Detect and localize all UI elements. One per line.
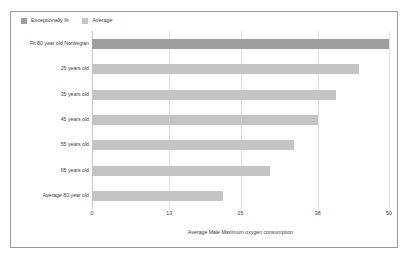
bar-row — [92, 158, 389, 183]
legend-swatch-icon — [21, 18, 27, 24]
category-label: Average 80 year old — [43, 194, 89, 199]
category-label: 45 years old — [61, 117, 89, 122]
x-tick-label: 38 — [315, 211, 321, 216]
bar[interactable] — [92, 115, 318, 125]
category-label: 25 years old — [61, 67, 89, 72]
x-axis-title: Average Male Maximum oxygen consumption — [92, 230, 389, 235]
chart-legend: Exceptionally fit Average — [21, 18, 112, 24]
bar[interactable] — [92, 64, 359, 74]
gridline — [389, 31, 390, 209]
x-tick-label: 13 — [166, 211, 172, 216]
category-label: 35 years old — [61, 92, 89, 97]
category-axis-labels: Fit 80 year old Norwegian25 years old35 … — [19, 31, 89, 209]
bar-row — [92, 107, 389, 132]
legend-label: Exceptionally fit — [31, 18, 68, 23]
chart-frame: Exceptionally fit Average Fit 80 year ol… — [10, 11, 398, 248]
category-cell: 45 years old — [19, 107, 89, 132]
category-label: 55 years old — [61, 143, 89, 148]
bar[interactable] — [92, 166, 270, 176]
x-tick-label: 25 — [238, 211, 244, 216]
category-cell: Average 80 year old — [19, 184, 89, 209]
bar-series-group — [92, 31, 389, 209]
plot-area — [92, 31, 389, 209]
category-label: Fit 80 year old Norwegian — [30, 41, 89, 46]
category-cell: 25 years old — [19, 56, 89, 81]
legend-item-average[interactable]: Average — [82, 18, 112, 24]
category-cell: 65 years old — [19, 158, 89, 183]
bar-row — [92, 56, 389, 81]
plot-inner — [92, 31, 389, 209]
category-cell: 55 years old — [19, 133, 89, 158]
category-label: 65 years old — [61, 168, 89, 173]
x-tick-label: 50 — [386, 211, 392, 216]
legend-item-exceptionally-fit[interactable]: Exceptionally fit — [21, 18, 68, 24]
legend-swatch-icon — [82, 18, 88, 24]
bar[interactable] — [92, 39, 389, 49]
bar[interactable] — [92, 90, 336, 100]
bar-row — [92, 184, 389, 209]
x-tick-label: 0 — [91, 211, 94, 216]
bar[interactable] — [92, 191, 223, 201]
bar-row — [92, 82, 389, 107]
category-cell: Fit 80 year old Norwegian — [19, 31, 89, 56]
category-cell: 35 years old — [19, 82, 89, 107]
bar-row — [92, 133, 389, 158]
legend-label: Average — [92, 18, 112, 23]
x-axis-ticks: 013253850 — [92, 211, 389, 223]
bar-row — [92, 31, 389, 56]
bar[interactable] — [92, 140, 294, 150]
